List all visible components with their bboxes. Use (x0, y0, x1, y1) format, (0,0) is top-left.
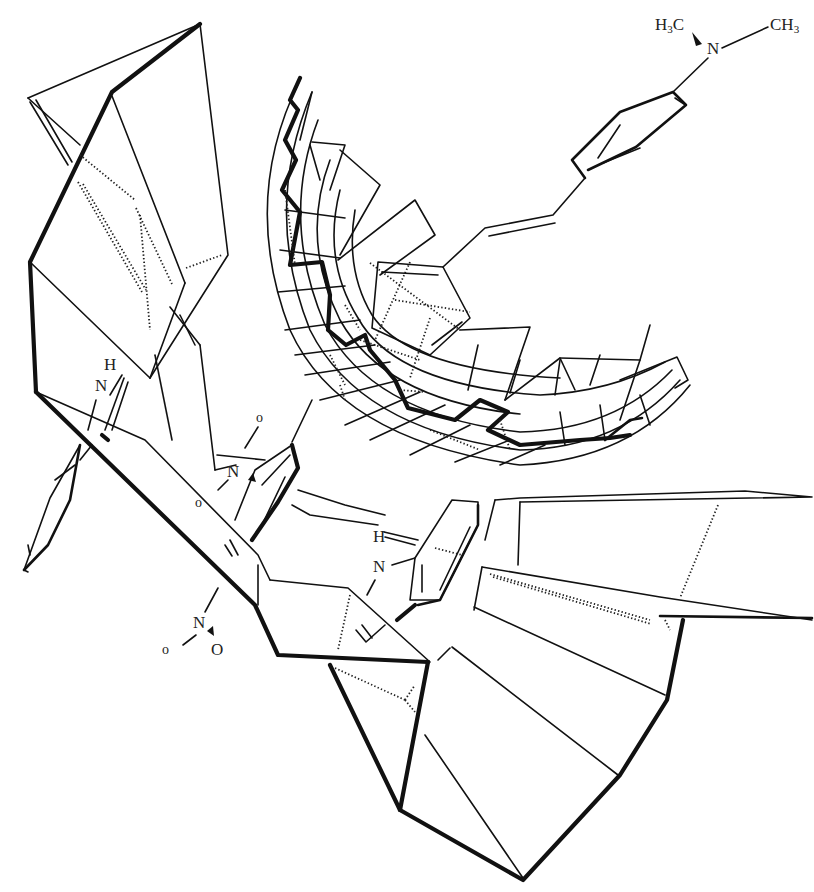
label-nitro-lower-o-right: O (211, 641, 223, 658)
label-ch3: CH3 (770, 16, 799, 35)
nitrogen-text: N (373, 557, 385, 576)
oxygen-text: o (195, 495, 202, 510)
label-h3c: H3C (655, 16, 684, 35)
amine-nitrogen-text: N (707, 39, 719, 58)
hydrogen-text: H (373, 527, 385, 546)
label-indole-left-n: N (95, 377, 107, 394)
hydrogen-text: H (104, 355, 116, 374)
diagram-canvas (0, 0, 814, 892)
methyl-right-text: CH3 (770, 15, 799, 34)
label-indole-left-h: H (104, 356, 116, 373)
indole-left (24, 375, 128, 572)
label-nitro-upper-o-top: o (256, 411, 263, 425)
label-indole-center-n: N (373, 558, 385, 575)
right-host-wall (330, 491, 812, 880)
nitrogen-text: N (95, 376, 107, 395)
label-nitro-lower-o-left: o (162, 643, 169, 657)
curved-mesh-surface (267, 78, 690, 465)
label-nitro-upper-o-bottom: o (195, 496, 202, 510)
center-rings (225, 445, 418, 556)
nitrogen-text: N (227, 462, 239, 481)
oxygen-text: O (211, 640, 223, 659)
label-nitro-lower-n: N (193, 614, 205, 631)
molecular-diagram: H3C N CH3 H N o N o H N N o O (0, 0, 814, 892)
diagonal-band (36, 392, 430, 662)
label-n-dimethylamino: N (707, 40, 719, 57)
oxygen-text: o (256, 410, 263, 425)
label-nitro-upper-n: N (227, 463, 239, 480)
methyl-left-text: H3C (655, 15, 684, 34)
label-indole-center-h: H (373, 528, 385, 545)
left-host-wall (28, 24, 228, 470)
nitrogen-text: N (193, 613, 205, 632)
oxygen-text: o (162, 642, 169, 657)
